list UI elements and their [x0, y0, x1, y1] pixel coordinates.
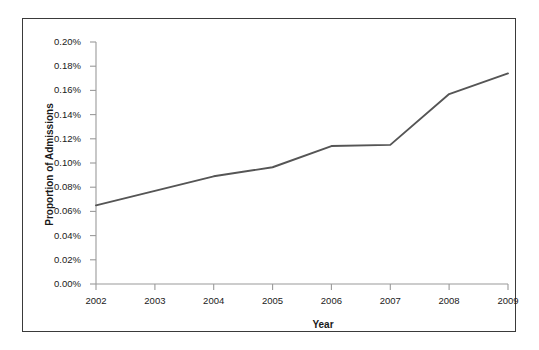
y-tick-marks [90, 42, 96, 284]
x-tick-label: 2003 [129, 295, 181, 306]
y-tick-label: 0.02% [35, 254, 81, 265]
chart-figure: 0.20% 0.18% 0.16% 0.14% 0.12% 0.10% 0.08… [0, 0, 539, 350]
y-tick-label: 0.08% [35, 181, 81, 192]
y-tick-label: 0.10% [35, 157, 81, 168]
x-tick-marks [96, 284, 508, 290]
chart-frame: 0.20% 0.18% 0.16% 0.14% 0.12% 0.10% 0.08… [22, 18, 516, 332]
x-tick-label: 2009 [482, 295, 534, 306]
data-series-line [96, 73, 508, 205]
y-tick-label: 0.06% [35, 205, 81, 216]
y-tick-label: 0.20% [35, 36, 81, 47]
y-tick-label: 0.14% [35, 109, 81, 120]
x-tick-label: 2006 [305, 295, 357, 306]
x-tick-label: 2002 [70, 295, 122, 306]
x-tick-label: 2007 [364, 295, 416, 306]
y-tick-label: 0.18% [35, 60, 81, 71]
y-tick-label: 0.16% [35, 84, 81, 95]
x-tick-label: 2004 [188, 295, 240, 306]
chart-plot-area [23, 19, 514, 330]
x-axis-title: Year [118, 319, 528, 330]
x-tick-label: 2008 [423, 295, 475, 306]
y-tick-label: 0.00% [35, 278, 81, 289]
y-tick-label: 0.04% [35, 230, 81, 241]
y-axis-title: Proportion of Admissions [44, 95, 55, 235]
y-tick-label: 0.12% [35, 133, 81, 144]
x-tick-label: 2005 [247, 295, 299, 306]
